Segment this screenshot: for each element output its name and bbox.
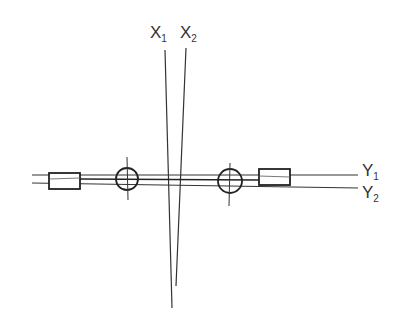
y2-label: Y2 [362, 183, 379, 204]
alignment-diagram: X1 X2 Y1 Y2 [0, 0, 409, 324]
left-wheel-vertical [127, 157, 128, 200]
shaft-line [80, 179, 259, 180]
diagram-svg: X1 X2 Y1 Y2 [0, 0, 409, 324]
x2-label: X2 [180, 23, 197, 44]
y2-axis-line [32, 183, 358, 188]
left-bearing-rect [49, 173, 80, 189]
x1-label: X1 [150, 23, 167, 44]
x2-axis-line [176, 48, 186, 286]
y1-label: Y1 [362, 161, 379, 182]
